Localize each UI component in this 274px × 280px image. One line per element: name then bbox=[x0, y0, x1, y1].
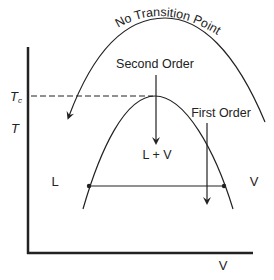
tc-sub: c bbox=[18, 96, 22, 105]
liquid-label: L bbox=[51, 174, 58, 189]
y-axis-label: T bbox=[11, 121, 20, 136]
x-axis-label: V bbox=[219, 258, 228, 273]
critical-temperature-label: Tc bbox=[10, 89, 22, 105]
phase-diagram: No Transition Point Second Order First O… bbox=[0, 0, 274, 280]
vapor-label: V bbox=[250, 174, 259, 189]
first-order-label: First Order bbox=[191, 106, 251, 120]
second-order-label: Second Order bbox=[116, 57, 194, 71]
axes bbox=[27, 47, 253, 254]
no-transition-label: No Transition Point bbox=[113, 5, 224, 38]
liquid-point bbox=[87, 184, 91, 188]
two-phase-label: L + V bbox=[142, 148, 172, 162]
vapor-point bbox=[222, 184, 226, 188]
